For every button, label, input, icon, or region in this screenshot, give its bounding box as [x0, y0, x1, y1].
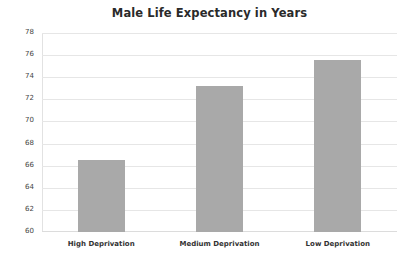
x-tick-label: Low Deprivation — [278, 240, 398, 248]
bar — [78, 160, 125, 232]
y-tick-label: 66 — [0, 161, 34, 169]
y-tick-label: 72 — [0, 94, 34, 102]
y-tick-label: 68 — [0, 139, 34, 147]
chart-title: Male Life Expectancy in Years — [0, 6, 419, 20]
plot-area — [42, 33, 397, 232]
bar — [196, 86, 243, 232]
y-tick-label: 70 — [0, 116, 34, 124]
y-tick-label: 74 — [0, 72, 34, 80]
gridline — [42, 33, 397, 34]
x-tick-label: High Deprivation — [41, 240, 161, 248]
y-tick-label: 60 — [0, 227, 34, 235]
gridline — [42, 55, 397, 56]
y-tick-label: 78 — [0, 28, 34, 36]
y-tick-label: 64 — [0, 183, 34, 191]
bar — [314, 60, 361, 232]
y-axis-line — [42, 33, 43, 232]
y-tick-label: 62 — [0, 205, 34, 213]
y-tick-label: 76 — [0, 50, 34, 58]
x-tick-label: Medium Deprivation — [160, 240, 280, 248]
